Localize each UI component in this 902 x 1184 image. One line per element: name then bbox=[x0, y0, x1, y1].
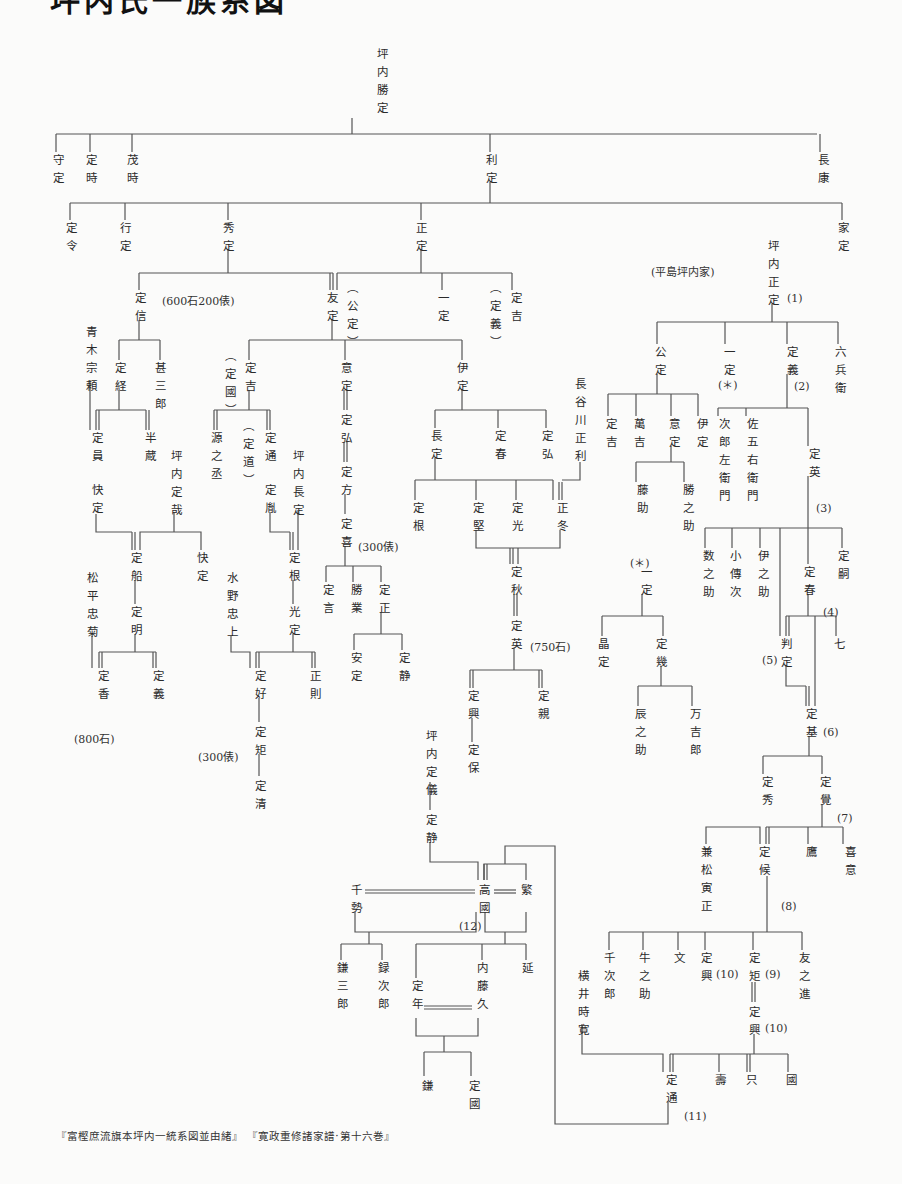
person-node-kii: 喜意 bbox=[844, 846, 856, 882]
person-node-taka: 鷹 bbox=[805, 846, 817, 864]
person-node-sadayoshi5: 定好 bbox=[254, 670, 266, 706]
person-node-jirozaemon: 次郎左衛門 bbox=[718, 418, 730, 508]
person-node-star_kazusada: 一定 bbox=[640, 566, 652, 602]
person-node-sadane2: 定根 bbox=[288, 552, 300, 588]
person-node-sadamichi2: 定通 bbox=[665, 1074, 677, 1110]
person-node-tsubouchi_masasada: 坪内正定 bbox=[767, 240, 779, 312]
annotation-label: (10) bbox=[716, 968, 739, 981]
person-node-yasusada: 安定 bbox=[350, 652, 362, 688]
person-node-sadayoshi_p: ︵定義︶ bbox=[489, 282, 501, 354]
person-node-ushinosuke: 牛之助 bbox=[638, 952, 650, 1006]
person-node-sadanori3: 定矩 bbox=[748, 952, 760, 988]
person-node-sadashizu2: 定静 bbox=[425, 814, 437, 850]
person-node-sadaoki1: 定興 bbox=[467, 690, 479, 726]
annotation-label: (12) bbox=[459, 920, 482, 933]
person-node-sadanori2: 定矩 bbox=[254, 726, 266, 762]
annotation-label: (平島坪内家) bbox=[651, 263, 715, 279]
person-node-sadayoshi3: 定吉 bbox=[244, 362, 256, 398]
person-node-tsubouchi_sadanori: 坪内定儀 bbox=[425, 730, 437, 802]
annotation-label: (6) bbox=[823, 726, 839, 739]
person-node-kaisada: 快定 bbox=[91, 484, 103, 520]
person-node-sadahide_e: 定英 bbox=[510, 620, 522, 656]
person-node-tomonoshin: 友之進 bbox=[798, 952, 810, 1006]
person-node-sadahiro2: 定弘 bbox=[541, 430, 553, 466]
person-node-morisada: 守定 bbox=[52, 154, 64, 190]
annotation-label: (2) bbox=[794, 380, 810, 393]
person-node-sadakiyo: 定清 bbox=[254, 780, 266, 816]
person-node-rokubee: 六兵衛 bbox=[834, 346, 846, 400]
annotation-label: (300俵) bbox=[198, 748, 239, 764]
person-node-kamasaburo: 鎌三郎 bbox=[336, 962, 348, 1016]
person-node-sadamasa: 定正 bbox=[378, 584, 390, 620]
annotation-label: (11) bbox=[684, 1110, 707, 1123]
person-node-chise: 千勢 bbox=[350, 884, 362, 920]
person-node-hanzo: 半蔵 bbox=[144, 432, 156, 468]
person-node-sadahide: 定英 bbox=[808, 448, 820, 484]
person-node-sadaoki2: 定興 bbox=[700, 952, 712, 988]
person-node-sadamichi: 定通 bbox=[264, 432, 276, 468]
person-node-masanori: 正則 bbox=[309, 670, 321, 706]
person-node-sadayoshi_h: 定義 bbox=[786, 346, 798, 382]
person-node-idasada2: 伊定 bbox=[696, 418, 708, 454]
annotation-label: (1) bbox=[787, 292, 803, 305]
person-node-yukisada: 行定 bbox=[119, 222, 131, 258]
person-node-masasada: 正定 bbox=[415, 222, 427, 258]
person-node-takakuni: 高國 bbox=[478, 884, 490, 920]
person-node-mizuno: 水野忠上 bbox=[226, 572, 238, 644]
source-citation: 『富樫庶流旗本坪内一統系図並由緒』 『寛政重修諸家譜·第十六巻』 bbox=[56, 1128, 395, 1143]
person-node-sadayasu: 定保 bbox=[467, 744, 479, 780]
person-node-tsubouchi_nagasada: 坪内長定 bbox=[292, 450, 304, 522]
person-node-katsunosuke: 勝之助 bbox=[682, 484, 694, 538]
person-node-nobu: 延 bbox=[521, 962, 533, 980]
person-node-sadatsune: 定経 bbox=[114, 362, 126, 398]
person-node-tatsunosuke: 辰之助 bbox=[634, 708, 646, 762]
person-node-kimisada: 公定 bbox=[654, 346, 666, 382]
person-node-tsubouchi_sadachika: 坪内定哉 bbox=[170, 450, 182, 522]
person-node-mankichiro: 万吉郎 bbox=[689, 708, 701, 762]
annotation-label: (＊) bbox=[630, 554, 650, 570]
person-node-sadahide2: 定秀 bbox=[761, 776, 773, 812]
person-node-sadagen: 定言 bbox=[322, 584, 334, 620]
person-node-nagasada: 長定 bbox=[430, 430, 442, 466]
person-node-sadatoki2: 定候 bbox=[758, 846, 770, 882]
annotation-label: (9) bbox=[765, 968, 781, 981]
person-node-sadamichi_p: ︵定道︶ bbox=[242, 420, 254, 492]
person-node-sadayoshi6: 定吉 bbox=[605, 418, 617, 454]
person-node-sadatoki: 定時 bbox=[85, 154, 97, 190]
person-node-shigetoki: 茂時 bbox=[126, 154, 138, 190]
person-node-yokoi: 横井時寛 bbox=[577, 970, 589, 1042]
person-node-tada: 只 bbox=[745, 1074, 757, 1092]
person-node-sadayoshi_k: 定喜 bbox=[340, 518, 352, 554]
annotation-label: (8) bbox=[781, 900, 797, 913]
person-node-sadasato: 定覺 bbox=[819, 776, 831, 812]
person-node-mitsusada: 光定 bbox=[288, 606, 300, 642]
person-node-sadahiro1: 定弘 bbox=[340, 414, 352, 450]
annotation-label: (3) bbox=[816, 502, 832, 515]
person-node-gennojo: 源之丞 bbox=[210, 432, 222, 486]
person-node-naito: 内藤久 bbox=[476, 962, 488, 1016]
person-node-fumi: 文 bbox=[673, 952, 685, 970]
person-node-mankichi: 萬吉 bbox=[633, 418, 645, 454]
person-node-hasegawa: 長谷川正利 bbox=[574, 378, 586, 468]
person-node-sadayoshi2: 定吉 bbox=[510, 292, 522, 328]
person-node-isada2: 意定 bbox=[668, 418, 680, 454]
person-node-sadachika: 定親 bbox=[537, 690, 549, 726]
person-node-masasada2: 晶定 bbox=[597, 638, 609, 674]
person-node-sadakuni2: 定國 bbox=[468, 1080, 480, 1116]
person-node-hansada: 判定 bbox=[780, 638, 792, 674]
person-node-inosuke: 伊之助 bbox=[757, 550, 769, 604]
person-node-iesada: 家定 bbox=[837, 222, 849, 258]
person-node-isada: 意定 bbox=[340, 362, 352, 398]
person-node-tomosada: 友定 bbox=[326, 292, 338, 328]
person-node-fujisuke: 藤助 bbox=[636, 484, 648, 520]
person-node-aoki: 青木宗頼 bbox=[85, 326, 97, 398]
person-node-sadakata2: 定堅 bbox=[472, 502, 484, 538]
person-node-saharu2: 定春 bbox=[803, 566, 815, 602]
person-node-sadashizu: 定静 bbox=[398, 652, 410, 688]
person-node-sadaka: 定香 bbox=[97, 670, 109, 706]
annotation-label: (600石200俵) bbox=[162, 292, 235, 308]
person-node-kenmatsu: 兼松寅正 bbox=[700, 846, 712, 918]
person-node-sadamitsu: 定光 bbox=[511, 502, 523, 538]
person-node-kazusada: 一定 bbox=[437, 292, 449, 328]
person-node-sadafune: 定船 bbox=[130, 552, 142, 588]
